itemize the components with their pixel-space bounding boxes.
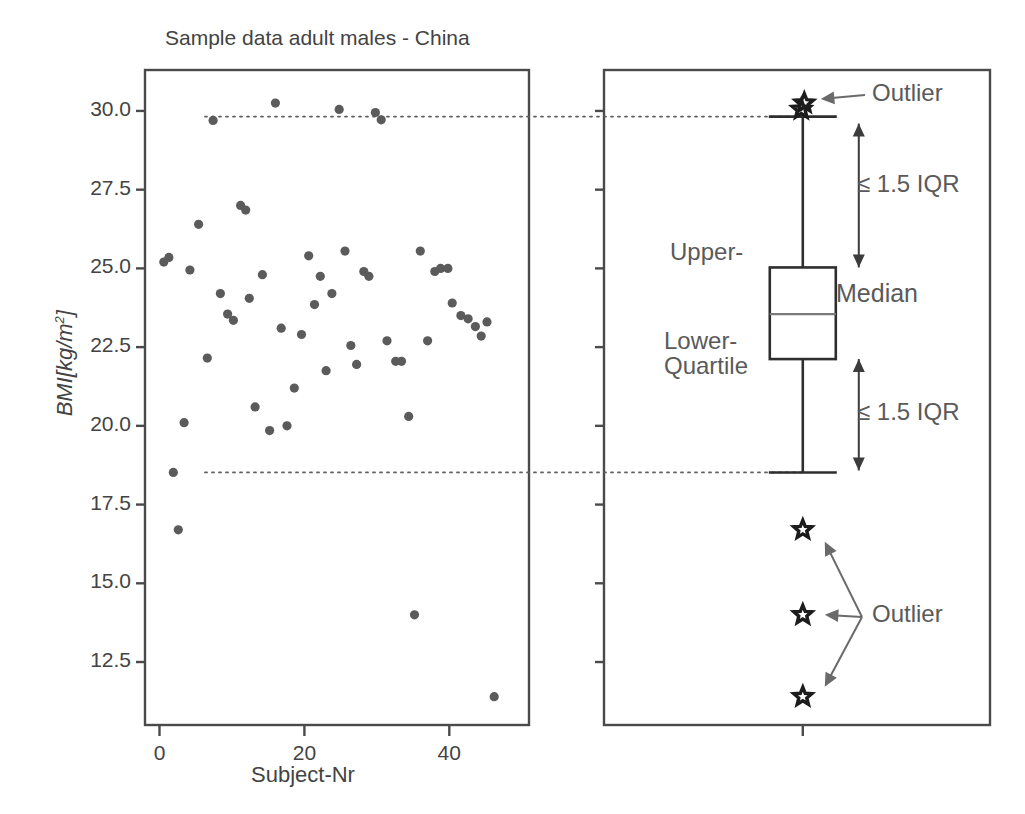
- outlier-leader-2-head: [825, 609, 839, 622]
- y-axis-label-bracket-close: ]: [52, 310, 77, 316]
- outlier-top-leader-shaft: [832, 95, 865, 98]
- outlier-leader-1-shaft: [830, 552, 862, 617]
- scatter-panel-frame: [145, 70, 529, 725]
- scatter-point: [194, 220, 203, 229]
- outlier-star-below: [794, 520, 812, 537]
- scatter-point: [443, 264, 452, 273]
- scatter-point: [304, 251, 313, 260]
- scatter-title: Sample data adult males - China: [165, 26, 470, 50]
- scatter-point: [290, 384, 299, 393]
- scatter-point: [271, 99, 280, 108]
- scatter-point: [471, 322, 480, 331]
- x-tick-label: 40: [433, 741, 465, 765]
- iqr-lower-dimension-head-bottom: [853, 457, 865, 470]
- y-axis-label-quantity: BMI: [52, 377, 77, 416]
- scatter-point: [423, 336, 432, 345]
- figure-canvas: Sample data adult males - China Subject-…: [0, 0, 1025, 814]
- scatter-point: [203, 354, 212, 363]
- annotation-upper-quartile: Upper-: [670, 238, 743, 266]
- scatter-point: [410, 610, 419, 619]
- scatter-point: [477, 332, 486, 341]
- x-axis-label: Subject-Nr: [251, 762, 355, 788]
- scatter-point: [464, 314, 473, 323]
- scatter-point: [346, 341, 355, 350]
- annotation-lower-quartile: Lower- Quartile: [664, 328, 748, 379]
- scatter-point: [377, 115, 386, 124]
- scatter-point: [316, 272, 325, 281]
- x-tick-label: 0: [143, 741, 175, 765]
- y-tick-label: 25.0: [90, 254, 131, 278]
- y-axis-label-bracket-open: [: [52, 371, 77, 377]
- scatter-point: [490, 692, 499, 701]
- scatter-point: [416, 247, 425, 256]
- scatter-point: [310, 300, 319, 309]
- scatter-point: [241, 206, 250, 215]
- y-axis-label-exponent: 2: [52, 316, 67, 323]
- y-tick-label: 17.5: [90, 491, 131, 515]
- scatter-point: [245, 294, 254, 303]
- scatter-point: [482, 317, 491, 326]
- scatter-point: [371, 108, 380, 117]
- annotation-lower-quartile-line2: Quartile: [664, 353, 748, 378]
- annotation-outlier-bottom: Outlier: [872, 600, 943, 628]
- y-axis-label-unit: kg/m: [52, 323, 77, 371]
- scatter-point: [164, 253, 173, 262]
- scatter-point: [322, 366, 331, 375]
- scatter-point: [382, 336, 391, 345]
- scatter-point: [169, 468, 178, 477]
- y-tick-label: 12.5: [90, 648, 131, 672]
- iqr-lower-dimension-head-top: [853, 359, 865, 372]
- scatter-point: [265, 426, 274, 435]
- scatter-point: [404, 412, 413, 421]
- scatter-point: [335, 105, 344, 114]
- scatter-point: [216, 289, 225, 298]
- scatter-point: [180, 418, 189, 427]
- scatter-point: [327, 289, 336, 298]
- iqr-upper-dimension-head-top: [853, 124, 865, 137]
- annotation-iqr-upper: ≤ 1.5 IQR: [857, 170, 960, 198]
- outlier-star-above: [795, 94, 813, 111]
- annotation-outlier-top: Outlier: [872, 79, 943, 107]
- y-tick-label: 22.5: [90, 333, 131, 357]
- scatter-point: [282, 421, 291, 430]
- scatter-point: [209, 116, 218, 125]
- y-axis-label: BMI[kg/m2]: [52, 263, 78, 463]
- y-tick-label: 15.0: [90, 569, 131, 593]
- annotation-median: Median: [836, 279, 918, 308]
- outlier-leader-2-shaft: [836, 615, 862, 617]
- scatter-point: [251, 402, 260, 411]
- y-tick-label: 27.5: [90, 176, 131, 200]
- annotation-iqr-lower: ≤ 1.5 IQR: [857, 398, 960, 426]
- scatter-point: [185, 265, 194, 274]
- scatter-point: [229, 316, 238, 325]
- scatter-point: [364, 272, 373, 281]
- y-tick-label: 30.0: [90, 97, 131, 121]
- scatter-point: [258, 270, 267, 279]
- scatter-point: [277, 324, 286, 333]
- iqr-upper-dimension-head-bottom: [853, 254, 865, 267]
- scatter-point: [174, 525, 183, 534]
- outlier-star-below: [794, 687, 812, 704]
- x-tick-label: 20: [288, 741, 320, 765]
- outlier-leader-3-shaft: [830, 617, 862, 677]
- y-tick-label: 20.0: [90, 412, 131, 436]
- scatter-point: [448, 298, 457, 307]
- outlier-top-leader-head: [821, 91, 835, 104]
- scatter-point: [397, 357, 406, 366]
- scatter-point: [297, 330, 306, 339]
- annotation-lower-quartile-line1: Lower-: [664, 328, 748, 353]
- outlier-star-below: [794, 605, 812, 622]
- scatter-point: [340, 247, 349, 256]
- scatter-point: [352, 360, 361, 369]
